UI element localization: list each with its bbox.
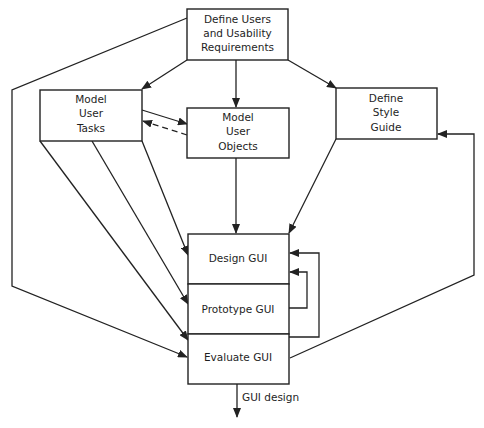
node-label-line: Model: [222, 111, 254, 123]
node-label-line: User: [226, 125, 251, 137]
node-design-gui: Design GUI: [188, 234, 289, 284]
edge-style-guide-to-design: [289, 139, 336, 233]
node-prototype-gui: Prototype GUI: [188, 284, 289, 334]
edge-requirements-to-tasks: [142, 60, 187, 89]
edge-evaluate-to-design-loop: [289, 253, 319, 337]
node-label-line: Define Users: [204, 13, 271, 25]
gui-design-process-diagram: Define Users and Usability Requirements …: [0, 0, 484, 428]
edge-prototype-to-design-loop: [289, 272, 307, 308]
node-model-user-tasks: Model User Tasks: [40, 90, 142, 141]
edge-requirements-to-style-guide: [288, 60, 336, 88]
node-model-user-objects: Model User Objects: [187, 108, 289, 158]
node-label-line: Requirements: [201, 41, 274, 53]
node-label-line: Prototype GUI: [202, 303, 275, 315]
output-label: GUI design: [242, 391, 299, 403]
edge-tasks-to-evaluate: [40, 141, 188, 340]
node-label-line: Style: [373, 106, 399, 118]
node-evaluate-gui: Evaluate GUI: [188, 334, 289, 384]
node-label-line: Model: [75, 93, 107, 105]
node-label-line: Objects: [218, 140, 258, 152]
edge-tasks-to-prototype: [92, 141, 188, 304]
node-define-requirements: Define Users and Usability Requirements: [187, 9, 288, 60]
node-label-line: Evaluate GUI: [204, 351, 272, 363]
edge-evaluate-to-style-guide: [290, 134, 474, 358]
node-label-line: and Usability: [203, 27, 271, 39]
edge-objects-to-tasks-dashed: [143, 121, 187, 135]
node-label-line: Define: [369, 92, 403, 104]
node-define-style-guide: Define Style Guide: [336, 88, 437, 139]
node-label-line: User: [79, 107, 104, 119]
node-label-line: Design GUI: [209, 252, 268, 264]
edge-tasks-to-objects: [142, 110, 187, 124]
node-label-line: Guide: [371, 121, 402, 133]
node-label-line: Tasks: [76, 122, 105, 134]
